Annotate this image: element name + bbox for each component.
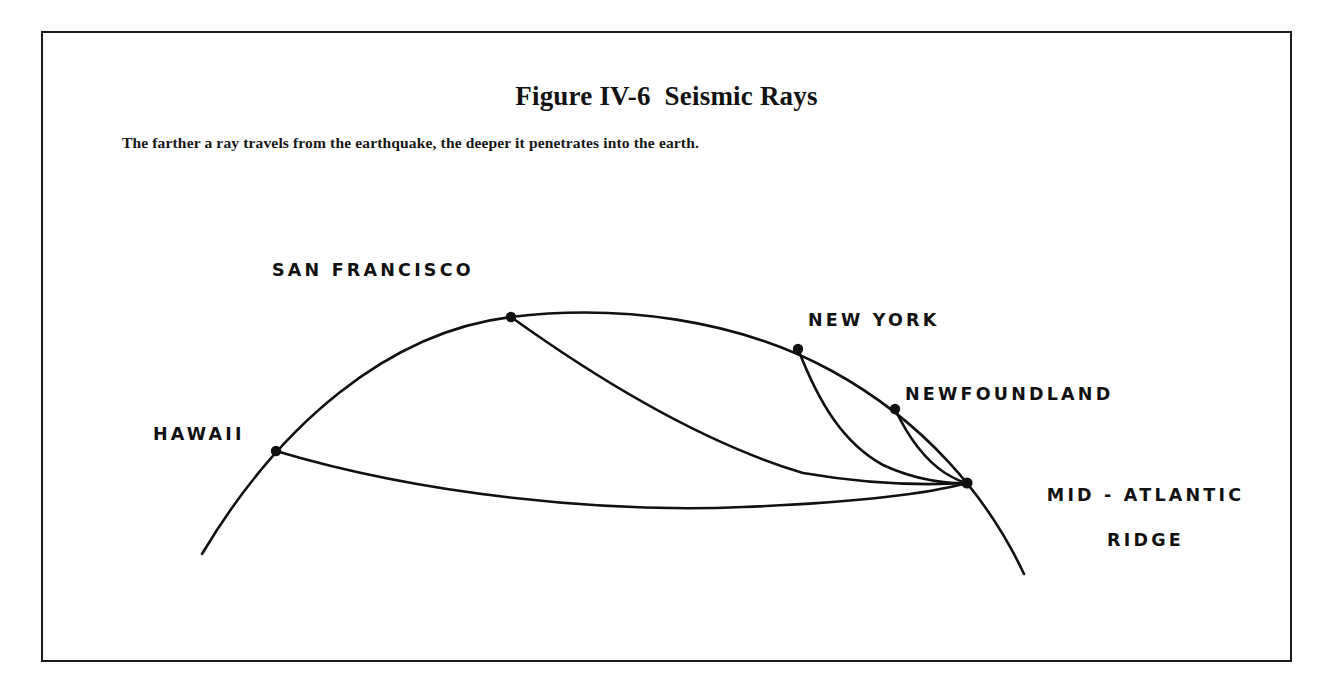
ray-mid-atlantic-ridge-to-hawaii	[276, 451, 967, 508]
station-marker-san-francisco	[506, 312, 516, 322]
ray-mid-atlantic-ridge-to-new-york	[798, 349, 967, 483]
station-marker-new-york	[793, 344, 803, 354]
station-marker-hawaii	[271, 446, 281, 456]
figure-page: Figure IV-6 Seismic Rays The farther a r…	[0, 0, 1337, 694]
station-marker-mid-atlantic-ridge	[961, 477, 972, 488]
label-san-francisco: SAN FRANCISCO	[272, 259, 474, 281]
ray-mid-atlantic-ridge-to-san-francisco	[511, 317, 967, 484]
label-new-york: NEW YORK	[808, 309, 940, 331]
label-mid-atlantic-ridge-line1: MID - ATLANTIC	[1047, 485, 1244, 505]
earth-surface-arc	[202, 313, 1024, 574]
label-hawaii: HAWAII	[153, 423, 245, 445]
label-mid-atlantic-ridge: MID - ATLANTIC RIDGE	[991, 462, 1244, 574]
label-mid-atlantic-ridge-line2: RIDGE	[1107, 530, 1184, 550]
label-newfoundland: NEWFOUNDLAND	[905, 383, 1113, 405]
station-marker-newfoundland	[890, 404, 900, 414]
figure-frame: Figure IV-6 Seismic Rays The farther a r…	[41, 31, 1292, 662]
